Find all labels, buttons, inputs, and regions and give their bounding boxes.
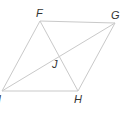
side-FG: [40, 21, 115, 23]
diagonal-FH: [40, 21, 78, 91]
vertex-label-I: I: [0, 93, 1, 105]
side-GH: [78, 23, 115, 91]
diagonal-GI: [2, 23, 115, 91]
parallelogram-diagram: F G H I J: [0, 0, 126, 118]
intersection-label-J: J: [51, 58, 58, 70]
vertex-label-F: F: [36, 7, 44, 19]
side-IF: [2, 21, 40, 91]
vertex-label-G: G: [111, 9, 120, 21]
vertex-label-H: H: [74, 93, 82, 105]
